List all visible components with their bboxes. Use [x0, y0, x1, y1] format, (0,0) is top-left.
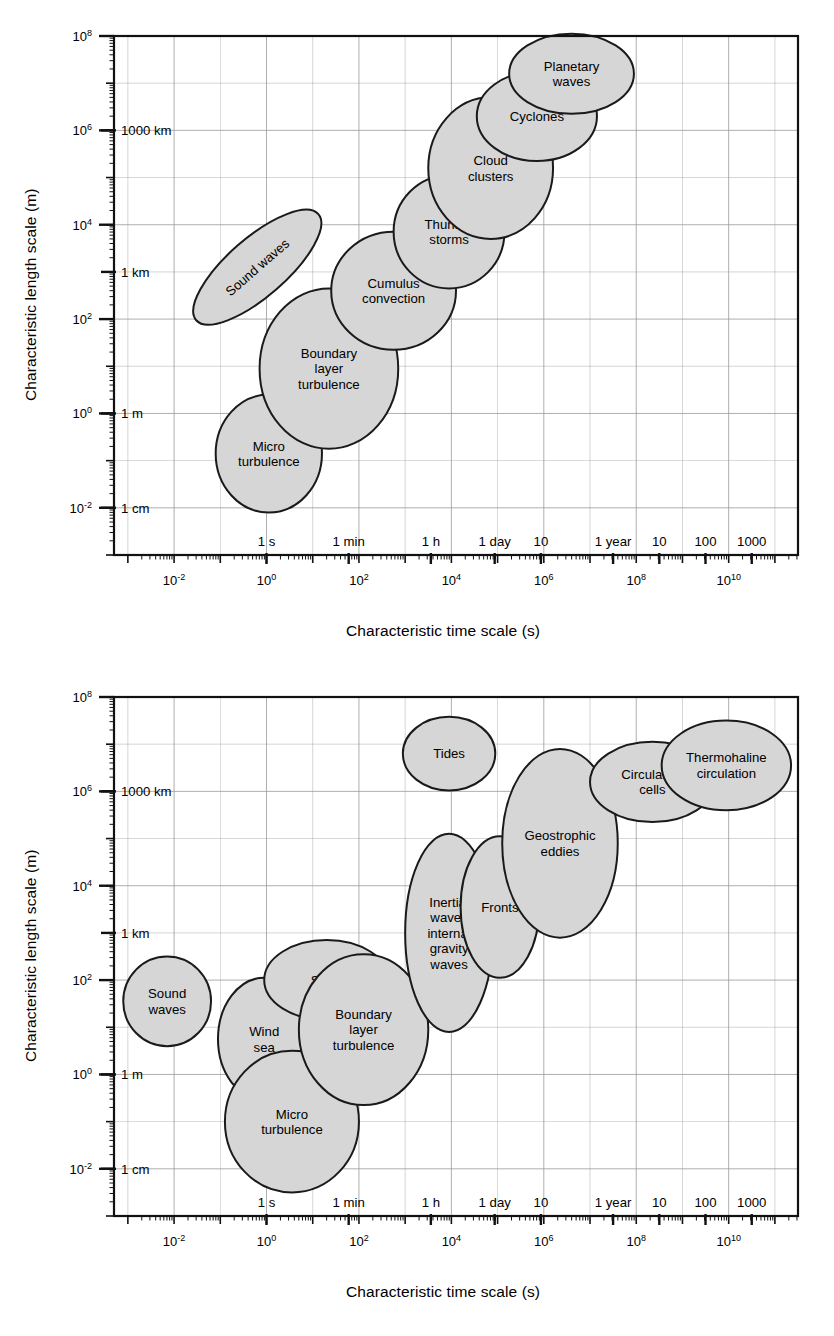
x-tick-label: 100: [257, 572, 276, 588]
y-tick-label: 102: [73, 311, 92, 327]
bubble-planetary-waves: Planetarywaves: [509, 34, 634, 114]
bubble-sound-waves: Soundwaves: [123, 957, 211, 1047]
x-named-tick-label: 1000: [737, 534, 766, 549]
y-tick-label: 106: [73, 122, 92, 138]
y-tick-label: 106: [73, 783, 92, 799]
bubble-label: Tides: [433, 746, 465, 761]
x-named-tick-label: 1 day: [479, 1195, 512, 1210]
x-named-tick-label: 1 year: [595, 534, 632, 549]
oceanic-plot-svg: SoundwavesWindseaMicroturbulenceSwellBou…: [0, 660, 834, 1336]
x-named-tick-label: 1 year: [595, 1195, 632, 1210]
x-named-tick-label: 1 h: [422, 534, 440, 549]
atmospheric-plot-svg: MicroturbulenceBoundarylayerturbulenceSo…: [0, 0, 834, 660]
y-tick-label: 10-2: [70, 1161, 92, 1177]
x-tick-label: 102: [349, 572, 368, 588]
bubble-label: Thermohalinecirculation: [686, 750, 767, 781]
bubble-thermohaline-circulation: Thermohalinecirculation: [662, 721, 791, 811]
y-tick-label: 108: [73, 28, 92, 44]
y-named-tick-label: 1000 km: [121, 123, 172, 138]
x-tick-label: 104: [442, 572, 461, 588]
y-axis-title: Characteristic length scale (m): [22, 849, 40, 1061]
y-tick-label: 102: [73, 972, 92, 988]
x-tick-label: 10-2: [163, 1233, 185, 1249]
x-tick-label: 108: [627, 572, 646, 588]
y-tick-label: 100: [73, 405, 92, 421]
bubble-label: Fronts: [481, 900, 519, 915]
x-named-tick-label: 10: [534, 534, 549, 549]
x-named-tick-label: 1 day: [479, 534, 512, 549]
y-named-tick-label: 1 km: [121, 926, 150, 941]
x-tick-label: 108: [627, 1233, 646, 1249]
x-named-tick-label: 1 h: [422, 1195, 440, 1210]
x-axis-title: Characteristic time scale (s): [346, 622, 540, 640]
y-named-tick-label: 1 km: [121, 265, 150, 280]
y-tick-label: 104: [73, 217, 92, 233]
x-tick-label: 106: [534, 572, 553, 588]
x-named-tick-label: 1 min: [333, 1195, 365, 1210]
x-named-tick-label: 10: [652, 534, 667, 549]
y-named-tick-label: 1 cm: [121, 501, 150, 516]
x-tick-label: 1010: [716, 1233, 740, 1249]
x-tick-label: 104: [442, 1233, 461, 1249]
x-tick-label: 10-2: [163, 572, 185, 588]
x-tick-label: 1010: [716, 572, 740, 588]
y-tick-label: 104: [73, 878, 92, 894]
bubble-tides: Tides: [403, 717, 495, 791]
bubble-label: Windsea: [249, 1024, 279, 1055]
y-tick-label: 108: [73, 689, 92, 705]
x-named-tick-label: 1 s: [258, 1195, 276, 1210]
x-named-tick-label: 10: [652, 1195, 667, 1210]
x-tick-label: 102: [349, 1233, 368, 1249]
x-named-tick-label: 1000: [737, 1195, 766, 1210]
bubble-label: Cloudclusters: [468, 153, 514, 184]
y-named-tick-label: 1000 km: [121, 784, 172, 799]
x-named-tick-label: 100: [695, 1195, 717, 1210]
x-tick-label: 100: [257, 1233, 276, 1249]
bubble-label: Soundwaves: [147, 986, 186, 1017]
oceanic-scales-chart: SoundwavesWindseaMicroturbulenceSwellBou…: [0, 660, 834, 1336]
y-tick-label: 10-2: [70, 500, 92, 516]
bubble-label: Cumulusconvection: [362, 276, 425, 307]
figure-page: MicroturbulenceBoundarylayerturbulenceSo…: [0, 0, 834, 1336]
y-axis-title: Characteristic length scale (m): [22, 188, 40, 400]
y-tick-label: 100: [73, 1066, 92, 1082]
x-named-tick-label: 1 min: [333, 534, 365, 549]
x-tick-label: 106: [534, 1233, 553, 1249]
x-named-tick-label: 100: [695, 534, 717, 549]
x-axis-title: Characteristic time scale (s): [346, 1283, 540, 1301]
y-named-tick-label: 1 cm: [121, 1162, 150, 1177]
y-named-tick-label: 1 m: [121, 406, 143, 421]
atmospheric-scales-chart: MicroturbulenceBoundarylayerturbulenceSo…: [0, 0, 834, 660]
x-named-tick-label: 10: [534, 1195, 549, 1210]
y-named-tick-label: 1 m: [121, 1067, 143, 1082]
x-named-tick-label: 1 s: [258, 534, 276, 549]
